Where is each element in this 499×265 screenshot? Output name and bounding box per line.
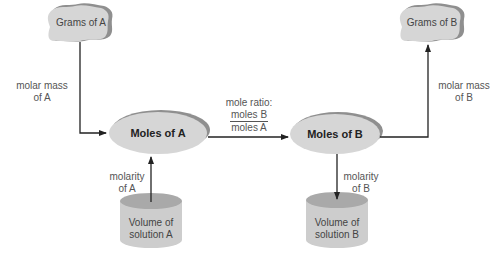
moles-a-label: Moles of A bbox=[112, 127, 204, 139]
edge-label-mole-ratio: mole ratio: moles B moles A bbox=[212, 97, 286, 134]
molar-mass-a-line1: molar mass bbox=[12, 80, 72, 92]
volume-b-line1: Volume of bbox=[306, 217, 368, 229]
volume-a-label: Volume of solution A bbox=[120, 217, 182, 241]
molar-mass-b-line1: molar mass bbox=[432, 80, 496, 92]
mole-ratio-denominator: moles A bbox=[212, 122, 286, 134]
volume-b-line2: solution B bbox=[306, 229, 368, 241]
volume-a-line2: solution A bbox=[120, 229, 182, 241]
moles-b-label: Moles of B bbox=[292, 128, 378, 140]
edge-label-molarity-a: molarity of A bbox=[106, 171, 148, 195]
edge-label-molar-mass-b: molar mass of B bbox=[432, 80, 496, 104]
edge-moles-b-to-grams-b bbox=[380, 45, 428, 137]
edge-grams-a-to-moles-a bbox=[80, 42, 106, 133]
molar-mass-a-line2: of A bbox=[12, 92, 72, 104]
edge-label-molar-mass-a: molar mass of A bbox=[12, 80, 72, 104]
grams-a-label: Grams of A bbox=[52, 17, 110, 29]
molarity-b-line1: molarity bbox=[340, 171, 382, 183]
edge-label-molarity-b: molarity of B bbox=[340, 171, 382, 195]
mole-ratio-numerator: moles B bbox=[230, 109, 268, 122]
molarity-a-line1: molarity bbox=[106, 171, 148, 183]
molar-mass-b-line2: of B bbox=[432, 92, 496, 104]
volume-a-line1: Volume of bbox=[120, 217, 182, 229]
mole-ratio-title: mole ratio: bbox=[212, 97, 286, 109]
molarity-a-line2: of A bbox=[106, 183, 148, 195]
grams-b-label: Grams of B bbox=[403, 17, 461, 29]
molarity-b-line2: of B bbox=[340, 183, 382, 195]
volume-b-label: Volume of solution B bbox=[306, 217, 368, 241]
